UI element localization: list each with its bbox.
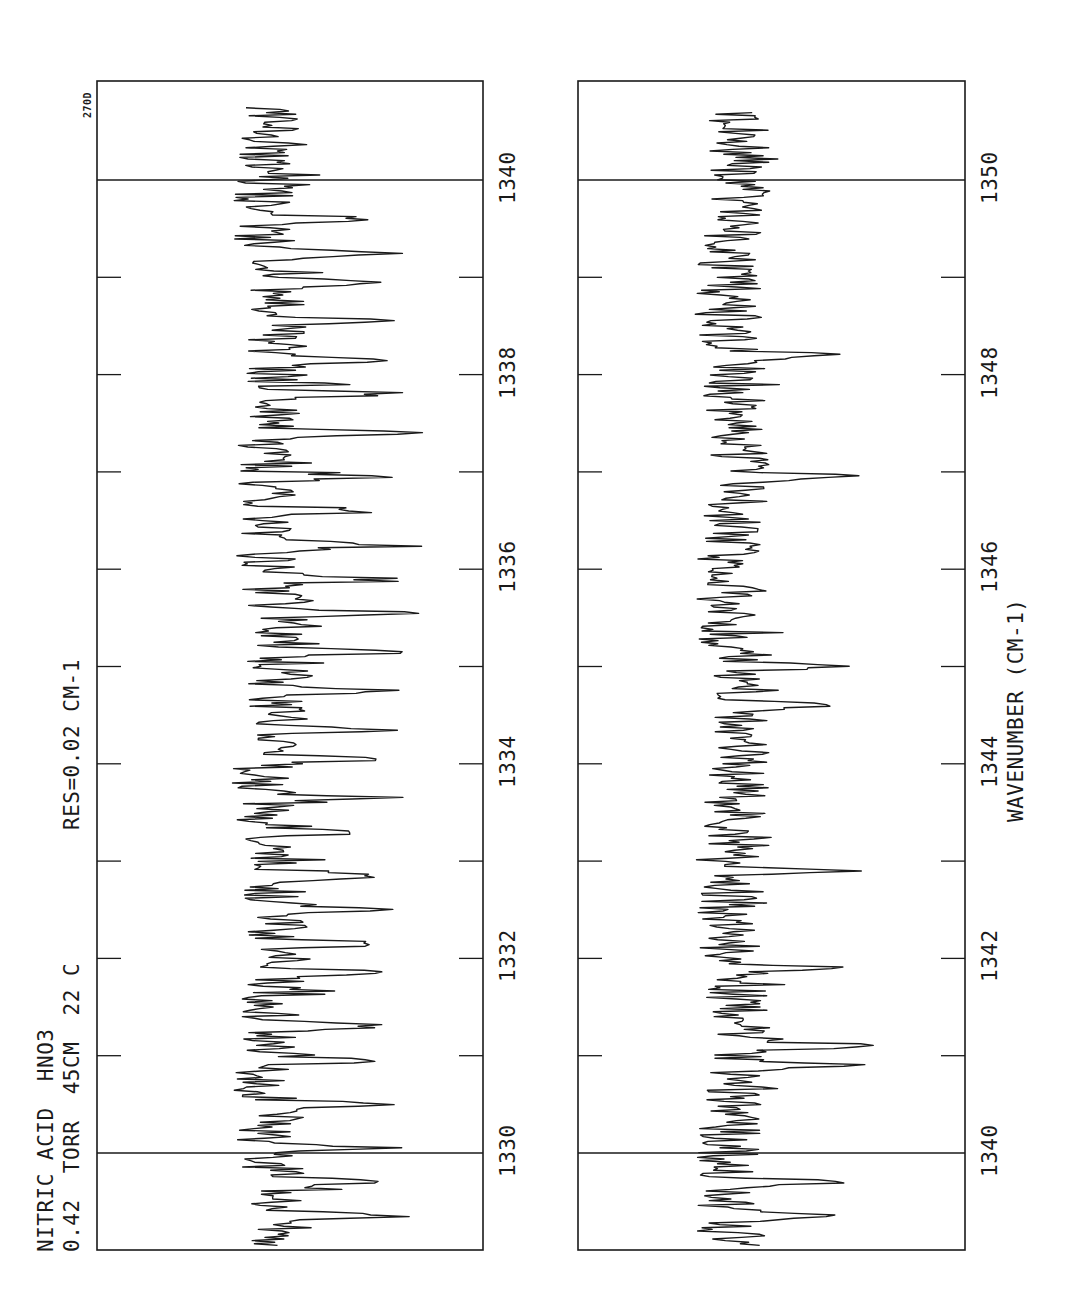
left-plot-frame bbox=[97, 81, 483, 1250]
tick-label: 1334 bbox=[496, 735, 520, 788]
tick-label: 1340 bbox=[496, 151, 520, 204]
tick-label: 1348 bbox=[978, 346, 1002, 399]
right-plot-frame bbox=[578, 81, 965, 1250]
plot-id-label: 270D bbox=[82, 92, 93, 118]
tick-label: 1340 bbox=[978, 1124, 1002, 1177]
left-spectrum-trace bbox=[233, 108, 423, 1246]
tick-label: 1342 bbox=[978, 930, 1002, 983]
right-spectrum-trace bbox=[695, 113, 873, 1246]
tick-label: 1330 bbox=[496, 1124, 520, 1177]
spectrum-chart bbox=[0, 0, 1084, 1305]
sample-title: NITRIC ACID HNO3 bbox=[34, 1029, 58, 1252]
x-axis-title: WAVENUMBER (CM-1) bbox=[1004, 599, 1028, 822]
tick-label: 1332 bbox=[496, 930, 520, 983]
right-panel bbox=[578, 81, 965, 1250]
sample-conditions: 0.42 TORR 45CM 22 C bbox=[60, 963, 84, 1252]
left-panel bbox=[97, 81, 483, 1250]
tick-label: 1338 bbox=[496, 346, 520, 399]
tick-label: 1336 bbox=[496, 541, 520, 594]
right-axis-ticks bbox=[578, 180, 965, 1153]
resolution-label: RES=0.02 CM-1 bbox=[60, 659, 84, 830]
tick-label: 1344 bbox=[978, 735, 1002, 788]
tick-label: 1350 bbox=[978, 151, 1002, 204]
tick-label: 1346 bbox=[978, 541, 1002, 594]
